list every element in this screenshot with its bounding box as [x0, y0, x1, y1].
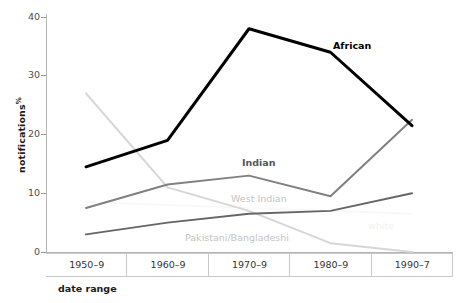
series-label-west-indian: West Indian — [231, 193, 287, 204]
x-tick-label-3: 1970–9 — [209, 258, 290, 272]
series-label-pakistani-bangladeshi: Pakistani/Bangladeshi — [185, 232, 289, 243]
x-tick-label-1: 1950–9 — [46, 258, 127, 272]
series-label-white: white — [368, 220, 394, 231]
x-tick-label-5: 1990–7 — [372, 258, 453, 272]
x-tick-label-2: 1960–9 — [127, 258, 208, 272]
series-label-indian: Indian — [242, 157, 276, 168]
line-chart: notifications% 40 30 20 10 0 1950–9 1960… — [0, 0, 458, 303]
series-label-african: African — [333, 40, 371, 51]
x-tick-label-4: 1980–9 — [290, 258, 371, 272]
x-axis-title: date range — [58, 283, 117, 294]
